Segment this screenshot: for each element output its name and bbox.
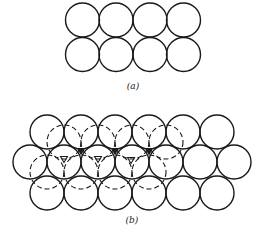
- sphere-circle: [167, 38, 201, 72]
- sphere-circle: [98, 176, 132, 210]
- sphere-circle: [133, 38, 167, 72]
- sphere-circle: [30, 176, 64, 210]
- sphere-circle: [66, 3, 100, 37]
- sphere-circle: [99, 3, 133, 37]
- close-packed-spheres-diagram: (a) (b): [0, 0, 265, 235]
- sphere-circle: [167, 3, 201, 37]
- part-a-label: (a): [127, 81, 140, 91]
- sphere-circle: [99, 38, 133, 72]
- part-a-square-packing: [66, 3, 201, 72]
- part-b-label: (b): [126, 215, 139, 225]
- sphere-circle: [200, 176, 234, 210]
- sphere-circle: [66, 38, 100, 72]
- sphere-circle: [132, 176, 166, 210]
- sphere-circle: [200, 115, 234, 149]
- sphere-circle: [217, 145, 251, 179]
- hollow-triangle-marker-icon: [128, 158, 135, 164]
- sphere-circle: [64, 176, 98, 210]
- sphere-circle: [183, 145, 217, 179]
- sphere-circle: [166, 176, 200, 210]
- sphere-circle: [133, 3, 167, 37]
